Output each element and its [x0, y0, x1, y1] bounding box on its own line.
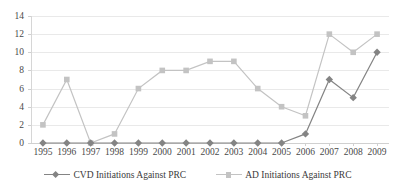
data-point-square — [279, 104, 285, 110]
data-point-square — [207, 59, 213, 65]
data-point-diamond — [159, 139, 166, 146]
legend-item-ad[interactable]: AD Initiations Against PRC — [216, 170, 351, 181]
data-point-diamond — [135, 139, 142, 146]
data-point-square — [40, 122, 46, 128]
data-point-diamond — [39, 139, 46, 146]
data-point-diamond — [63, 139, 70, 146]
series-line — [43, 34, 377, 143]
legend: CVD Initiations Against PRC AD Initiatio… — [0, 167, 396, 183]
data-point-square — [231, 59, 237, 65]
line-chart: 02468101214 1995199619971998199920002001… — [0, 0, 396, 190]
series-ad — [40, 31, 380, 145]
series-layer — [0, 0, 396, 190]
legend-marker-ad-icon — [216, 170, 242, 180]
data-point-square — [159, 68, 165, 74]
data-point-square — [374, 31, 380, 37]
data-point-square — [255, 86, 261, 92]
data-point-diamond — [254, 139, 261, 146]
data-point-square — [64, 77, 70, 83]
data-point-diamond — [302, 130, 309, 137]
data-point-square — [327, 31, 333, 37]
data-point-square — [112, 131, 118, 137]
data-point-diamond — [373, 49, 380, 56]
data-point-diamond — [278, 139, 285, 146]
data-point-square — [136, 86, 142, 92]
legend-label-ad: AD Initiations Against PRC — [245, 170, 351, 181]
data-point-diamond — [182, 139, 189, 146]
data-point-diamond — [230, 139, 237, 146]
data-point-square — [183, 68, 189, 74]
legend-label-cvd: CVD Initiations Against PRC — [73, 170, 186, 181]
legend-marker-cvd-icon — [44, 170, 70, 180]
legend-item-cvd[interactable]: CVD Initiations Against PRC — [44, 170, 186, 181]
data-point-diamond — [111, 139, 118, 146]
data-point-diamond — [206, 139, 213, 146]
data-point-square — [303, 113, 309, 119]
series-line — [43, 52, 377, 143]
data-point-square — [350, 49, 356, 55]
